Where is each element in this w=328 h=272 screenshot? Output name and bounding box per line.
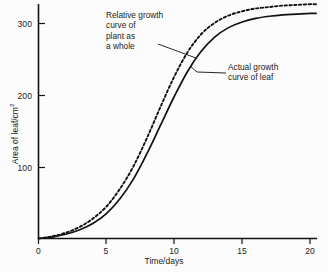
x-tick-label-20: 20 bbox=[300, 246, 320, 256]
y-axis-title-superscript: 2 bbox=[8, 104, 15, 107]
annotation-relative-growth: Relative growth curve of plant as a whol… bbox=[106, 10, 180, 52]
growth-curve-chart: 300 200 100 0 5 10 15 20 Area of leaf/cm… bbox=[0, 0, 328, 272]
y-axis-title-text: Area of leaf/cm bbox=[10, 107, 20, 164]
x-tick-label-0: 0 bbox=[29, 246, 49, 256]
annotation-actual-growth: Actual growth curve of leaf bbox=[228, 62, 308, 83]
y-tick-label-300: 300 bbox=[6, 19, 32, 29]
leader-line-actual bbox=[190, 66, 226, 73]
x-tick-label-5: 5 bbox=[96, 246, 116, 256]
x-tick-label-10: 10 bbox=[164, 246, 184, 256]
y-axis-title: Area of leaf/cm2 bbox=[8, 89, 20, 179]
x-axis-title: Time/days bbox=[0, 256, 328, 266]
x-tick-label-15: 15 bbox=[232, 246, 252, 256]
